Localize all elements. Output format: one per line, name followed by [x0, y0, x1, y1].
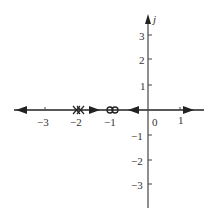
- real-tick-label: 1: [178, 114, 184, 126]
- imag-tick-label: −3: [131, 179, 143, 191]
- pole-zero-plot: j −3 −2 −1 0 1 3 2 1 −1 −2 −3: [0, 0, 218, 221]
- imag-axis-label: j: [151, 13, 156, 25]
- real-tick-label: −1: [104, 116, 116, 128]
- imag-tick-label: 2: [139, 54, 145, 66]
- locus-arrow-left-icon: [128, 106, 139, 114]
- locus-arrow-right-icon: [183, 106, 194, 114]
- real-tick-label: −3: [37, 116, 49, 128]
- imag-tick-label: −2: [131, 155, 143, 167]
- imag-tick-label: −1: [131, 130, 143, 142]
- imag-axis-arrow-icon: [145, 14, 151, 24]
- imag-tick-label: 1: [140, 80, 146, 92]
- real-tick-label: −2: [70, 116, 82, 128]
- imag-tick-label: 3: [139, 30, 145, 42]
- locus-arrow-right-icon: [89, 106, 100, 114]
- locus-arrow-left-icon: [16, 106, 27, 114]
- real-tick-label: 0: [152, 116, 158, 128]
